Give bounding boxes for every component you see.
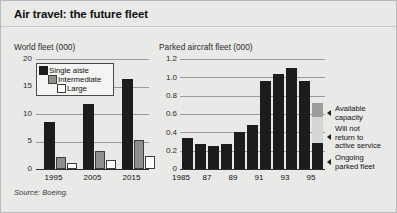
- legend-label-intermediate: Intermediate: [58, 75, 101, 84]
- ytick-right-0: 0: [155, 164, 177, 173]
- ytick-left-0: 0: [13, 164, 32, 173]
- gridline-20: [36, 59, 149, 60]
- chart-figure: Air travel: the future fleet World fleet…: [0, 0, 397, 213]
- xtick-2015: 2015: [114, 173, 149, 182]
- x-axis-line-right: [180, 169, 325, 170]
- bar-1995-large: [67, 163, 77, 169]
- plot-area-parked-fleet: [180, 59, 325, 170]
- panel-parked-aircraft-fleet: Parked aircraft fleet (000): [159, 42, 397, 192]
- ytick-right-0_4: 0.4: [155, 128, 177, 137]
- ytick-right-1_2: 1.2: [155, 54, 177, 63]
- bar-1987: [208, 146, 219, 169]
- xtick-89: 89: [220, 173, 246, 182]
- bar-1986: [195, 144, 206, 169]
- bar-1991: [260, 81, 271, 169]
- panel-title-world-fleet: World fleet (000): [14, 42, 75, 52]
- gridline-1_0: [180, 77, 325, 78]
- bar-2005-single-aisle: [83, 104, 94, 169]
- bar-1994: [299, 81, 310, 169]
- arrow-available-capacity: [327, 110, 331, 116]
- ytick-left-10: 10: [13, 109, 32, 118]
- source-note: Source: Boeing.: [14, 188, 68, 197]
- ytick-left-15: 15: [13, 81, 32, 90]
- xtick-87: 87: [194, 173, 220, 182]
- bar-1992: [273, 74, 284, 169]
- legend-swatch-intermediate: [48, 75, 57, 84]
- arrow-ongoing-parked-fleet: [327, 159, 331, 165]
- arrow-will-not-return: [327, 134, 331, 140]
- panel-world-fleet: World fleet (000) 20 15 10 5 0: [14, 42, 149, 192]
- bar-1995-will-not-return: [312, 117, 323, 143]
- ytick-right-1_0: 1.0: [155, 73, 177, 82]
- annotation-available-capacity: Available capacity: [335, 105, 397, 122]
- bar-1995-single-aisle: [44, 122, 55, 169]
- bar-1990: [247, 125, 258, 169]
- legend-world-fleet: Single aisle Intermediate Large: [36, 63, 114, 96]
- legend-swatch-large: [57, 84, 66, 93]
- xtick-95: 95: [298, 173, 324, 182]
- xtick-1985: 1985: [168, 173, 194, 182]
- legend-label-single-aisle: Single aisle: [49, 66, 89, 75]
- ytick-right-0_6: 0.6: [155, 109, 177, 118]
- panel-title-parked-fleet: Parked aircraft fleet (000): [159, 42, 253, 52]
- x-axis-line: [36, 169, 149, 170]
- ytick-left-20: 20: [13, 54, 32, 63]
- bar-2005-large: [106, 160, 116, 169]
- annotation-will-not-return: Will not return to active service: [335, 125, 397, 151]
- legend-item-single-aisle: Single aisle: [39, 66, 110, 75]
- annotation-ongoing-parked-fleet: Ongoing parked fleet: [335, 154, 397, 171]
- xtick-91: 91: [246, 173, 272, 182]
- bar-2015-single-aisle: [122, 79, 133, 169]
- ytick-left-5: 5: [13, 136, 32, 145]
- bar-1993: [286, 68, 297, 169]
- bar-2015-large: [145, 156, 155, 169]
- bar-2005-intermediate: [95, 151, 105, 169]
- xtick-2005: 2005: [75, 173, 110, 182]
- ytick-right-0_2: 0.2: [155, 146, 177, 155]
- gridline-1_2: [180, 59, 325, 60]
- bar-1989: [234, 132, 245, 169]
- bar-1995-intermediate: [56, 157, 66, 169]
- xtick-1995: 1995: [36, 173, 71, 182]
- bar-1988: [221, 144, 232, 169]
- legend-item-intermediate: Intermediate: [48, 75, 110, 84]
- legend-item-large: Large: [57, 84, 110, 93]
- bar-1985: [182, 138, 193, 169]
- xtick-93: 93: [272, 173, 298, 182]
- legend-label-large: Large: [67, 84, 87, 93]
- page-title: Air travel: the future fleet: [14, 8, 148, 20]
- ytick-right-0_8: 0.8: [155, 91, 177, 100]
- bar-1995-ongoing-parked-fleet: [312, 143, 323, 169]
- bar-1995-available-capacity: [312, 103, 323, 117]
- legend-swatch-single-aisle: [39, 66, 48, 75]
- bar-2015-intermediate: [134, 140, 144, 169]
